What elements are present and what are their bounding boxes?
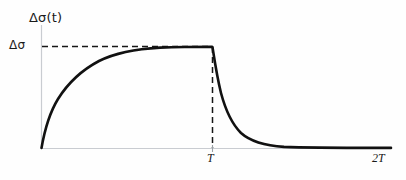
x-tick-label-T: T [207,152,214,164]
y-tick-label-delta-sigma: Δσ [9,39,25,51]
plot-canvas [0,0,406,180]
stress-relaxation-curve [42,47,392,148]
x-tick-label-2T: 2T [372,152,385,164]
stress-relaxation-figure: Δσ(t) Δσ T 2T [0,0,406,180]
y-axis-label: Δσ(t) [29,11,62,24]
